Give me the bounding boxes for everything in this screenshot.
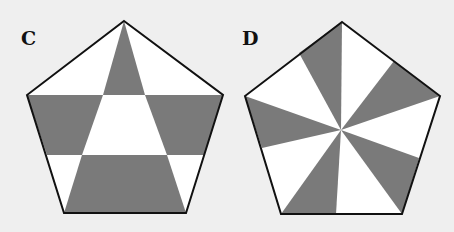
figure-label-c: C xyxy=(21,29,36,48)
pentagon-c xyxy=(27,21,223,213)
shaded-region xyxy=(64,155,186,213)
figure-label-d: D xyxy=(242,29,258,48)
pentagon-figures xyxy=(0,0,454,232)
diagram-canvas: C D xyxy=(0,0,454,232)
pentagon-d xyxy=(245,22,440,214)
